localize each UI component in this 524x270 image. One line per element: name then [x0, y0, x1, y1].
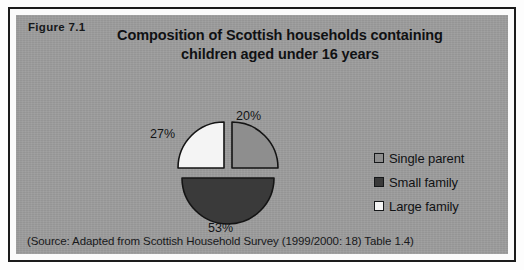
legend-label-single-parent: Single parent — [389, 151, 464, 166]
pie-value-label-large-family: 27% — [150, 127, 175, 141]
pie-value-label-small-family: 53% — [208, 221, 233, 235]
legend-label-large-family: Large family — [389, 199, 459, 214]
pie-slice-single-parent — [232, 122, 278, 168]
source-note: (Source: Adapted from Scottish Household… — [27, 235, 414, 247]
pie-chart: 20% 53% 27% — [148, 111, 308, 239]
pie-slice-small-family — [182, 178, 274, 224]
legend-swatch-icon-small-family — [374, 177, 384, 187]
legend-item-small-family: Small family — [374, 170, 464, 194]
legend-item-large-family: Large family — [374, 194, 464, 218]
chart-title-line-1: Composition of Scottish households conta… — [68, 26, 492, 45]
figure-frame: Figure 7.1 Composition of Scottish house… — [8, 7, 516, 262]
legend-swatch-icon-single-parent — [374, 153, 384, 163]
chart-title-line-2: children aged under 16 years — [68, 45, 492, 64]
legend-label-small-family: Small family — [389, 175, 458, 190]
chart-canvas: Figure 7.1 Composition of Scottish house… — [16, 15, 508, 254]
chart-title: Composition of Scottish households conta… — [68, 26, 492, 65]
pie-slice-large-family — [178, 122, 224, 168]
figure-page: Figure 7.1 Composition of Scottish house… — [0, 0, 524, 270]
pie-value-label-single-parent: 20% — [236, 109, 261, 123]
chart-legend: Single parent Small family Large family — [374, 146, 464, 218]
figure-number-label: Figure 7.1 — [28, 21, 85, 33]
legend-swatch-icon-large-family — [374, 201, 384, 211]
legend-item-single-parent: Single parent — [374, 146, 464, 170]
